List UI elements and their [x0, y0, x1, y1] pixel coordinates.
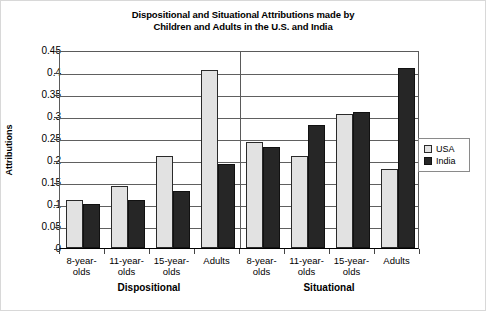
bar-india: [353, 112, 370, 248]
bar-usa: [381, 169, 398, 248]
bar-pair: [285, 125, 330, 248]
bar-usa: [156, 156, 173, 248]
x-axis-tick-mark: [374, 249, 375, 254]
bar-india: [173, 191, 190, 248]
chart-figure: Dispositional and Situational Attributio…: [0, 0, 486, 311]
bar-pair: [105, 186, 150, 248]
x-axis-tick-mark: [284, 249, 285, 254]
x-axis-tick-mark: [329, 249, 330, 254]
chart-legend: USAIndia: [418, 138, 470, 172]
bar-pair: [150, 156, 195, 248]
x-axis-tick-mark: [419, 249, 420, 254]
bar-usa: [291, 156, 308, 248]
bar-usa: [336, 114, 353, 248]
y-axis-label: Attributions: [3, 51, 15, 249]
x-axis-tick-mark: [104, 249, 105, 254]
chart-title-line-2: Children and Adults in the U.S. and Indi…: [1, 21, 485, 33]
chart-title-line-1: Dispositional and Situational Attributio…: [1, 9, 485, 21]
bar-pair: [330, 112, 375, 248]
plot-area: [59, 51, 419, 249]
x-axis-category-label-line: Adults: [366, 255, 428, 266]
legend-item-label: India: [436, 155, 456, 167]
x-axis-category-label-line: olds: [321, 266, 383, 277]
bar-india: [398, 68, 415, 248]
x-axis-tick-mark: [194, 249, 195, 254]
x-axis-category-label: Adults: [366, 255, 428, 266]
legend-swatch-india: [424, 157, 432, 165]
x-axis-group-label: Situational: [244, 282, 414, 293]
x-axis-group-label: Dispositional: [64, 282, 234, 293]
bar-india: [218, 164, 235, 248]
bar-pair: [195, 70, 240, 248]
chart-title: Dispositional and Situational Attributio…: [1, 9, 485, 33]
x-axis-tick-mark: [59, 249, 60, 254]
x-axis-tick-mark: [149, 249, 150, 254]
bar-pair: [240, 142, 285, 248]
bar-india: [128, 200, 145, 248]
bar-india: [308, 125, 325, 248]
bar-india: [263, 147, 280, 248]
bar-usa: [201, 70, 218, 248]
bar-usa: [246, 142, 263, 248]
legend-item: India: [424, 155, 465, 167]
x-axis-tick-mark: [239, 249, 240, 254]
bar-usa: [111, 186, 128, 248]
legend-swatch-usa: [424, 145, 432, 153]
legend-item: USA: [424, 143, 465, 155]
bar-pair: [375, 68, 420, 248]
x-axis-category-label-line: olds: [141, 266, 203, 277]
legend-item-label: USA: [436, 143, 455, 155]
bar-usa: [66, 200, 83, 248]
bar-pair: [60, 200, 105, 248]
bar-india: [83, 204, 100, 248]
